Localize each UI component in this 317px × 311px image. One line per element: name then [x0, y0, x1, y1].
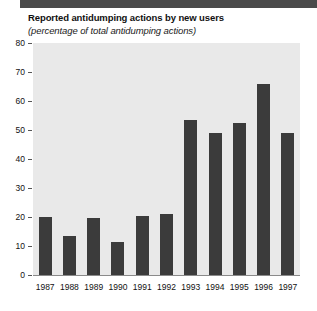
x-axis-tick-label: 1993	[179, 281, 203, 293]
bars-layer	[33, 43, 300, 275]
y-axis-tick-label: 30	[16, 183, 25, 193]
chart-title: Reported antidumping actions by new user…	[28, 12, 308, 24]
y-axis-tick-label: 80	[16, 38, 25, 48]
y-axis-tick-mark	[28, 72, 32, 73]
bar	[111, 242, 124, 275]
y-axis: 80706050403020100	[0, 43, 33, 275]
y-axis-tick-label: 20	[16, 212, 25, 222]
x-axis-tick-label: 1994	[203, 281, 227, 293]
y-axis-tick: 40	[16, 154, 33, 164]
y-axis-tick: 80	[16, 38, 33, 48]
bar	[160, 214, 173, 275]
y-axis-tick-mark	[28, 246, 32, 247]
x-axis-tick-label: 1990	[106, 281, 130, 293]
y-axis-tick-mark	[28, 130, 32, 131]
chart-subtitle: (percentage of total antidumping actions…	[28, 25, 308, 37]
x-axis-tick-label: 1989	[82, 281, 106, 293]
y-axis-tick: 30	[16, 183, 33, 193]
y-axis-tick-label: 70	[16, 67, 25, 77]
bar	[63, 236, 76, 275]
x-axis-tick-label: 1992	[154, 281, 178, 293]
y-axis-tick-mark	[28, 217, 32, 218]
x-axis-baseline	[33, 275, 300, 276]
top-rule	[20, 0, 317, 8]
title-block: Reported antidumping actions by new user…	[28, 12, 308, 37]
bar	[233, 123, 246, 275]
x-axis-tick-label: 1996	[251, 281, 275, 293]
y-axis-tick-mark	[28, 275, 32, 276]
y-axis-tick-label: 10	[16, 241, 25, 251]
y-axis-tick: 50	[16, 125, 33, 135]
bar	[257, 84, 270, 275]
y-axis-tick: 10	[16, 241, 33, 251]
y-axis-tick: 60	[16, 96, 33, 106]
y-axis-tick-mark	[28, 188, 32, 189]
x-axis: 1987198819891990199119921993199419951996…	[33, 281, 300, 295]
x-axis-tick-label: 1987	[33, 281, 57, 293]
y-axis-tick-label: 0	[20, 270, 25, 280]
bar	[39, 217, 52, 275]
bar	[209, 133, 222, 275]
y-axis-tick-label: 40	[16, 154, 25, 164]
y-axis-tick-mark	[28, 43, 32, 44]
y-axis-tick-mark	[28, 101, 32, 102]
y-axis-tick-mark	[28, 159, 32, 160]
y-axis-tick: 0	[20, 270, 33, 280]
x-axis-tick-label: 1988	[57, 281, 81, 293]
y-axis-tick: 70	[16, 67, 33, 77]
x-axis-tick-label: 1991	[130, 281, 154, 293]
y-axis-tick: 20	[16, 212, 33, 222]
bar	[87, 218, 100, 275]
bar	[281, 133, 294, 275]
x-axis-tick-label: 1995	[227, 281, 251, 293]
bar	[184, 120, 197, 275]
y-axis-tick-label: 60	[16, 96, 25, 106]
bar	[136, 216, 149, 275]
y-axis-tick-label: 50	[16, 125, 25, 135]
x-axis-tick-label: 1997	[276, 281, 300, 293]
